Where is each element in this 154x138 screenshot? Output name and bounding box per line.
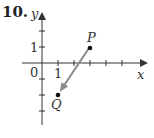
point-q-label: Q [51,97,62,112]
origin-label: 0 [30,65,38,80]
point-p [88,46,93,51]
x-tick-label-1: 1 [54,66,62,81]
point-p-label: P [86,30,96,45]
x-axis-label: x [137,67,145,82]
vector-pq [61,48,89,90]
coordinate-plane: y x 0 1 1 P Q [0,0,154,138]
y-axis-label: y [30,6,39,21]
y-tick-label-1: 1 [30,40,38,55]
